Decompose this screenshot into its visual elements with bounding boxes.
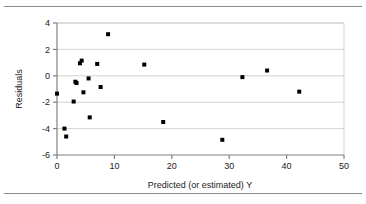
- data-point: [64, 135, 68, 139]
- data-point: [95, 62, 99, 66]
- data-point: [87, 76, 91, 80]
- grid-lines: [57, 23, 344, 129]
- data-point: [75, 81, 79, 85]
- data-point: [81, 90, 85, 94]
- data-point: [99, 85, 103, 89]
- y-tick-label-0: 0: [45, 71, 50, 81]
- y-tick-label--4: -4: [42, 124, 50, 134]
- y-tick-labels: -6-4-2024: [42, 18, 50, 160]
- x-tick-label-30: 30: [224, 161, 234, 171]
- data-point: [265, 69, 269, 73]
- data-point: [72, 100, 76, 104]
- y-axis-title: Residuals: [14, 69, 24, 109]
- data-point: [62, 127, 66, 131]
- x-axis-title: Predicted (or estimated) Y: [148, 180, 252, 190]
- data-point-group: [55, 32, 301, 142]
- data-point: [161, 120, 165, 124]
- data-point: [240, 75, 244, 79]
- data-point: [297, 90, 301, 94]
- x-tick-label-40: 40: [282, 161, 292, 171]
- x-tick-label-20: 20: [167, 161, 177, 171]
- data-point: [106, 32, 110, 36]
- y-tick-label-4: 4: [45, 18, 50, 28]
- y-tick-label-2: 2: [45, 45, 50, 55]
- data-point: [55, 92, 59, 96]
- scatter-plot-canvas: 01020304050 -6-4-2024 Predicted (or esti…: [0, 0, 366, 204]
- y-tick-label--6: -6: [42, 150, 50, 160]
- data-point: [88, 115, 92, 119]
- data-point: [80, 59, 84, 63]
- x-tick-label-10: 10: [109, 161, 119, 171]
- x-tick-label-0: 0: [54, 161, 59, 171]
- residual-plot-figure: 01020304050 -6-4-2024 Predicted (or esti…: [0, 0, 366, 204]
- x-axis: [57, 155, 344, 159]
- y-tick-label--2: -2: [42, 97, 50, 107]
- x-tick-label-50: 50: [339, 161, 349, 171]
- data-point: [220, 138, 224, 142]
- y-axis: [53, 23, 57, 155]
- x-tick-labels: 01020304050: [54, 161, 349, 171]
- data-point: [142, 63, 146, 67]
